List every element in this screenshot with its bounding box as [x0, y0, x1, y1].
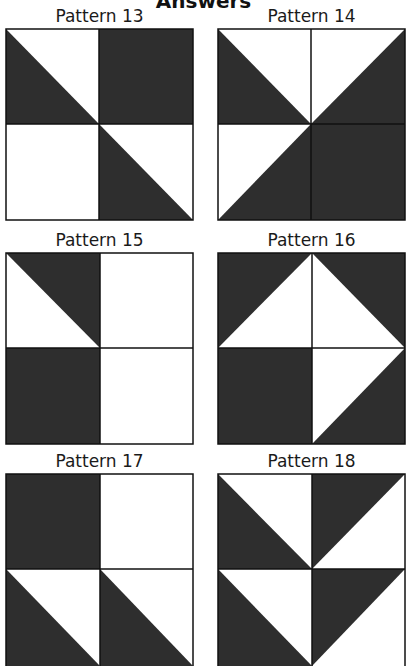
pattern-18: Pattern 18 — [217, 451, 406, 666]
pattern-17-grid — [5, 473, 194, 666]
pattern-15-grid — [5, 252, 194, 445]
pattern-13-grid — [5, 28, 194, 221]
pattern-label: Pattern 13 — [5, 6, 194, 28]
pattern-label: Pattern 15 — [5, 230, 194, 252]
pattern-16: Pattern 16 — [217, 230, 406, 445]
pattern-label: Pattern 18 — [217, 451, 406, 473]
pattern-16-grid — [217, 252, 406, 445]
pattern-14-grid — [217, 28, 406, 221]
pattern-15: Pattern 15 — [5, 230, 194, 445]
pattern-14: Pattern 14 — [217, 6, 406, 221]
pattern-label: Pattern 16 — [217, 230, 406, 252]
pattern-label: Pattern 14 — [217, 6, 406, 28]
pattern-18-grid — [217, 473, 406, 666]
pattern-17: Pattern 17 — [5, 451, 194, 666]
pattern-label: Pattern 17 — [5, 451, 194, 473]
pattern-13: Pattern 13 — [5, 6, 194, 221]
